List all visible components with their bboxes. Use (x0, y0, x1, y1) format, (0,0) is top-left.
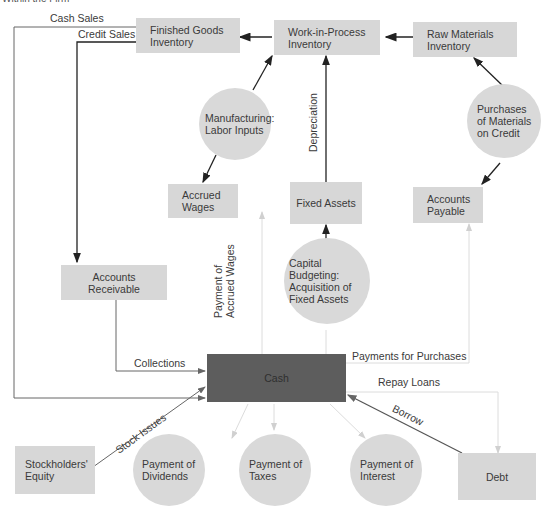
label: Dividends (142, 470, 195, 482)
label: Accounts (427, 193, 470, 205)
label: Receivable (88, 283, 140, 295)
credit-sales-label: Credit Sales (78, 28, 135, 40)
label: Fixed Assets (289, 293, 370, 305)
label: Payment of (249, 458, 302, 470)
label: Payment of (142, 458, 195, 470)
repay-loans-label: Repay Loans (378, 376, 440, 388)
label: Manufacturing: (205, 112, 274, 124)
label: on Credit (477, 127, 531, 139)
label: Inventory (150, 36, 224, 48)
label: Cash (264, 372, 289, 384)
accounts-receivable-box: AccountsReceivable (61, 265, 167, 300)
cash-sales-label: Cash Sales (50, 12, 104, 24)
payment-dividends-circle: Payment ofDividends (133, 434, 205, 506)
label: Finished Goods (150, 24, 224, 36)
label: Work-in-Process (288, 26, 365, 38)
label: Inventory (427, 40, 494, 52)
label: Accrued Wages (224, 244, 236, 318)
payment-accrued-wages-label: Payment of Accrued Wages (212, 244, 236, 318)
label: Payment of (212, 244, 224, 318)
label: Stockholders' (25, 458, 88, 470)
accrued-wages-box: AccruedWages (168, 184, 238, 218)
payment-interest-circle: Payment ofInterest (350, 434, 422, 506)
fixed-assets-box: Fixed Assets (290, 182, 362, 224)
label: Debt (486, 471, 508, 483)
accounts-payable-box: AccountsPayable (413, 187, 483, 223)
label: Interest (360, 470, 413, 482)
label: Taxes (249, 470, 302, 482)
label: Acquisition of (289, 281, 370, 293)
wip-inventory-box: Work-in-ProcessInventory (274, 20, 380, 55)
depreciation-label: Depreciation (307, 93, 319, 152)
cash-box: Cash (207, 354, 346, 402)
label: Raw Materials (427, 28, 494, 40)
purchases-materials-circle: Purchasesof Materialson Credit (467, 84, 541, 158)
manufacturing-labor-circle: Manufacturing:Labor Inputs (199, 88, 271, 160)
debt-box: Debt (458, 453, 536, 500)
label: Accounts (88, 271, 140, 283)
label: Accrued (182, 189, 221, 201)
payment-taxes-circle: Payment ofTaxes (239, 434, 311, 506)
collections-label: Collections (134, 357, 185, 369)
label: Inventory (288, 38, 365, 50)
finished-goods-inventory-box: Finished GoodsInventory (136, 18, 240, 53)
label: Payment of (360, 458, 413, 470)
stockholders-equity-box: Stockholders'Equity (15, 446, 95, 494)
label: Capital Budgeting: (289, 257, 370, 281)
capital-budgeting-circle: Capital Budgeting:Acquisition ofFixed As… (284, 238, 370, 324)
label: of Materials (477, 115, 531, 127)
payments-for-purchases-label: Payments for Purchases (352, 350, 466, 362)
label: Labor Inputs (205, 124, 274, 136)
label: Wages (182, 201, 221, 213)
label: Equity (25, 470, 88, 482)
raw-materials-inventory-box: Raw MaterialsInventory (413, 22, 517, 57)
label: Payable (427, 205, 470, 217)
label: Purchases (477, 103, 531, 115)
label: Fixed Assets (296, 197, 356, 209)
